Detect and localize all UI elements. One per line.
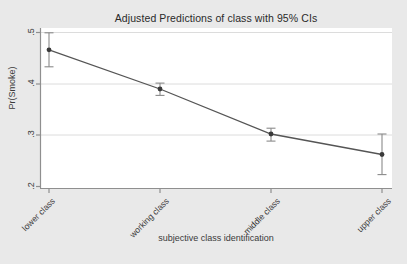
x-axis-ticks — [49, 189, 382, 194]
x-axis-title: subjective class identification — [40, 233, 392, 243]
y-tick-label-4: .4 — [26, 74, 36, 92]
prediction-line — [49, 50, 382, 155]
data-markers — [47, 47, 385, 157]
data-point-upper-class — [380, 152, 385, 157]
chart-figure: Adjusted Predictions of class with 95% C… — [0, 0, 407, 264]
data-point-lower-class — [47, 47, 52, 52]
y-axis-title: Pr(Smoke) — [7, 66, 17, 109]
gridlines — [40, 33, 392, 136]
y-tick-label-5: .5 — [26, 23, 36, 41]
data-point-working-class — [158, 87, 163, 92]
y-axis-ticks — [36, 33, 41, 187]
data-point-middle-class — [269, 132, 274, 137]
axis-lines — [40, 28, 392, 189]
y-tick-label-2: .2 — [26, 177, 36, 195]
plot-svg — [0, 0, 407, 264]
y-tick-label-3: .3 — [26, 125, 36, 143]
